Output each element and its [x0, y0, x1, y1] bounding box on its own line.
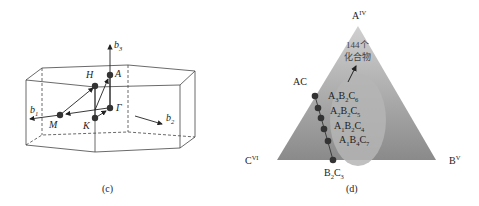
panel-d-ternary-diagram: AIV CVI BV AC 144个 化合物 A3B2C6 A2B2C5 A1B… [240, 0, 479, 206]
caption-d: (d) [346, 183, 358, 194]
compound-a3b2c6: A3B2C6 [328, 91, 358, 101]
point-a [107, 72, 113, 78]
compound-count-line1: 144个 [346, 41, 369, 50]
label-ac: AC [293, 77, 307, 87]
compound-a2b2c5: A2B2C5 [330, 106, 360, 116]
point-gamma [107, 105, 113, 111]
label-b2c3: B2C3 [324, 168, 344, 178]
label-gamma: Γ [116, 103, 122, 113]
vertex-a-iv: AIV [352, 11, 366, 21]
vertex-b-v: BV [449, 156, 460, 166]
label-a: A [115, 69, 121, 79]
label-m: M [49, 120, 57, 130]
point-m [57, 112, 63, 118]
axis-label-b2: b2 [166, 113, 174, 123]
axis-label-b1: b1 [30, 105, 38, 115]
point-k [92, 115, 98, 121]
panel-c-brillouin-zone: b3 b1 b2 H A M K Γ (c) [0, 0, 240, 206]
point-h [92, 83, 98, 89]
compound-count-line2: 化合物 [344, 53, 371, 62]
vertex-c-vi: CVI [245, 156, 259, 166]
caption-c: (c) [102, 183, 113, 194]
label-k: K [83, 121, 90, 131]
ternary-triangle [240, 0, 479, 206]
compound-a1b4c7: A1B4C7 [339, 135, 369, 145]
axis-label-b3: b3 [114, 40, 122, 50]
compound-a1b2c4: A1B2C4 [334, 121, 364, 131]
label-h: H [86, 70, 93, 80]
